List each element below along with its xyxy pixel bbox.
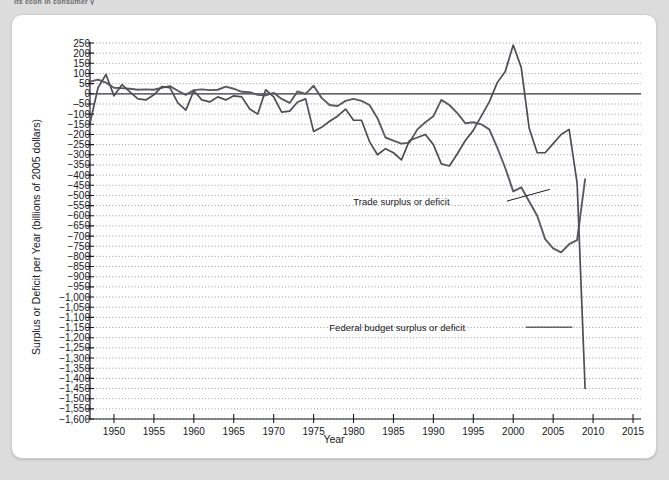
- y-axis-title-wrap: Surplus or Deficit per Year (billions of…: [28, 15, 44, 458]
- chart-card: 250200150100500‒50−100−150−200−250−300−3…: [11, 14, 657, 459]
- x-axis-title: Year: [12, 433, 656, 445]
- annotation-trade: Trade surplus or deficit: [353, 196, 449, 207]
- x-axis-tick-labels: 1950195519601965197019751980198519901995…: [12, 15, 656, 458]
- annotation-federal-budget: Federal budget surplus or deficit: [329, 322, 465, 333]
- chart-figure: 250200150100500‒50−100−150−200−250−300−3…: [12, 15, 656, 458]
- y-axis-title: Surplus or Deficit per Year (billions of…: [30, 119, 42, 355]
- clipped-header-text: its econ in consumer y: [14, 0, 94, 5]
